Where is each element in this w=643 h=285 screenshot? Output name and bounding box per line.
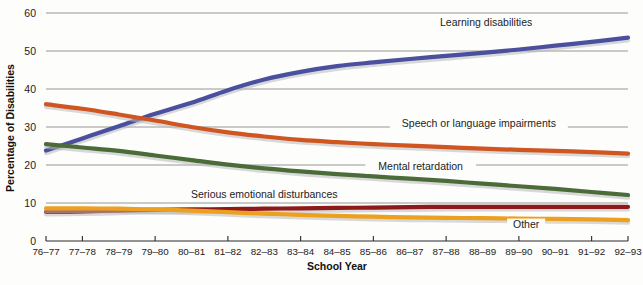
y-tick-label-10: 10 — [24, 197, 36, 209]
y-tick-label-60: 60 — [24, 7, 36, 19]
x-tick-label-10: 86–87 — [396, 246, 423, 257]
x-tick-label-15: 91–92 — [578, 246, 605, 257]
y-tick-label-50: 50 — [24, 45, 36, 57]
x-tick-label-12: 88–89 — [469, 246, 496, 257]
y-axis-title: Percentage of Disabilities — [4, 64, 16, 192]
series-shadow-0 — [46, 40, 628, 153]
x-tick-label-7: 83–84 — [287, 246, 315, 257]
x-tick-label-6: 82–83 — [251, 246, 279, 257]
x-tick-label-13: 89–90 — [505, 246, 533, 257]
x-tick-label-0: 76–77 — [32, 246, 59, 257]
x-tick-label-16: 92–93 — [614, 246, 642, 257]
x-tick-label-9: 85–86 — [360, 246, 388, 257]
x-tick-label-3: 79–80 — [142, 246, 170, 257]
series-label-3: Serious emotional disturbances — [191, 188, 338, 200]
x-tick-label-2: 78–79 — [105, 246, 132, 257]
y-tick-label-30: 30 — [24, 121, 36, 133]
y-tick-label-40: 40 — [24, 83, 36, 95]
chart-figure: 010203040506076–7777–7878–7979–8080–8181… — [0, 0, 643, 285]
y-tick-label-0: 0 — [30, 235, 36, 247]
x-tick-label-14: 90–91 — [542, 246, 569, 257]
series-line-0 — [46, 38, 628, 151]
series-label-1: Speech or language impairments — [402, 117, 556, 129]
x-tick-label-5: 81–82 — [214, 246, 241, 257]
line-chart: 010203040506076–7777–7878–7979–8080–8181… — [0, 0, 643, 285]
x-tick-label-11: 87–88 — [433, 246, 461, 257]
x-axis-title: School Year — [307, 260, 367, 272]
series-label-4: Other — [513, 218, 540, 230]
series-0 — [46, 38, 628, 153]
x-tick-label-1: 77–78 — [69, 246, 97, 257]
x-axis: 76–7777–7878–7979–8080–8181–8282–8383–84… — [32, 236, 642, 257]
x-tick-label-4: 80–81 — [178, 246, 205, 257]
series-label-0: Learning disabilities — [440, 16, 532, 28]
y-tick-label-20: 20 — [24, 159, 36, 171]
series-label-2: Mental retardation — [378, 160, 463, 172]
x-tick-label-8: 84–85 — [323, 246, 351, 257]
